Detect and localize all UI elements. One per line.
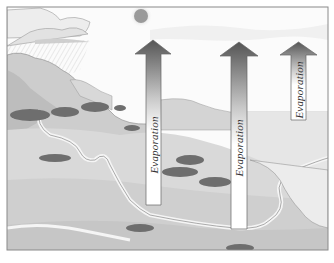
evaporation-label-3: Evaporation [293, 61, 305, 118]
diagram-canvas [0, 0, 334, 263]
sun-icon [134, 9, 148, 23]
evaporation-label-2: Evaporation [233, 119, 245, 176]
evaporation-label-1: Evaporation [148, 116, 160, 173]
water-cycle-diagram: Evaporation Evaporation Evaporation [0, 0, 334, 263]
